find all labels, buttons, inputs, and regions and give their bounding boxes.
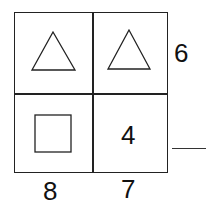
- triangle-icon: [32, 32, 75, 70]
- shapes-layer: [0, 0, 217, 213]
- row-sum-blank: [172, 148, 206, 149]
- row-sum-top: 6: [174, 40, 188, 66]
- cell-value: 4: [121, 122, 135, 148]
- triangle-icon: [108, 30, 150, 69]
- col-sum-right: 7: [121, 176, 135, 202]
- square-icon: [35, 115, 71, 152]
- col-sum-left: 8: [43, 178, 57, 204]
